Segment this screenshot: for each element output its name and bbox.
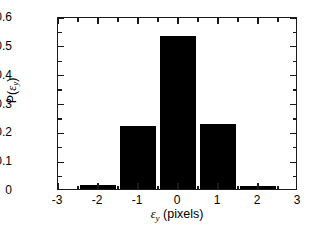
y-tick-major-right	[290, 17, 296, 18]
y-tick-major-right	[290, 46, 296, 47]
x-tick-minor	[237, 186, 238, 190]
x-tick-minor-top	[237, 18, 238, 22]
x-axis-title-units: (pixels)	[160, 207, 204, 221]
y-tick-major	[58, 46, 64, 47]
x-tick-major-top	[217, 18, 218, 24]
y-axis-title-p: P(	[5, 91, 19, 104]
y-tick-label: 0.1	[0, 155, 12, 167]
y-axis-title-paren: )	[5, 78, 19, 82]
y-tick-major	[58, 133, 64, 134]
x-tick-label: -2	[77, 194, 117, 206]
x-tick-label: -3	[37, 194, 77, 206]
bar	[120, 126, 156, 189]
x-axis-title: εy (pixels)	[57, 208, 297, 225]
x-tick-minor	[197, 186, 198, 190]
x-tick-major	[137, 183, 138, 189]
y-tick-minor-right	[293, 89, 297, 90]
x-tick-major	[257, 183, 258, 189]
y-tick-label: 0.5	[0, 40, 12, 52]
x-tick-label: 1	[197, 194, 237, 206]
x-tick-major-top	[177, 18, 178, 24]
x-tick-minor-top	[157, 18, 158, 22]
y-axis-title-epsilon: ε	[5, 86, 19, 91]
plot-area	[57, 17, 297, 190]
y-tick-major	[58, 17, 64, 18]
x-tick-major	[217, 183, 218, 189]
x-tick-label: -1	[117, 194, 157, 206]
y-axis-title: P(εy)	[6, 83, 23, 103]
x-tick-minor-top	[277, 18, 278, 22]
x-tick-major-top	[97, 18, 98, 24]
y-tick-minor-right	[293, 32, 297, 33]
x-tick-minor	[77, 186, 78, 190]
x-tick-major-top	[57, 18, 58, 24]
x-tick-major	[177, 183, 178, 189]
y-tick-minor	[58, 118, 62, 119]
x-tick-minor	[157, 186, 158, 190]
y-tick-major-right	[290, 75, 296, 76]
y-tick-minor-right	[293, 176, 297, 177]
y-tick-minor-right	[293, 118, 297, 119]
x-tick-major	[57, 183, 58, 189]
y-tick-major	[58, 162, 64, 163]
x-tick-label: 2	[237, 194, 277, 206]
x-tick-label: 0	[157, 194, 197, 206]
x-tick-major-top	[257, 18, 258, 24]
y-tick-major-right	[290, 162, 296, 163]
y-tick-major	[58, 104, 64, 105]
y-tick-label: 0.2	[0, 126, 12, 138]
x-tick-minor	[277, 186, 278, 190]
bar	[160, 36, 196, 189]
y-tick-minor	[58, 61, 62, 62]
y-tick-major	[58, 75, 64, 76]
x-tick-major-top	[137, 18, 138, 24]
bar	[200, 124, 236, 189]
bar-series	[58, 18, 296, 189]
y-tick-label: 0.6	[0, 11, 12, 23]
y-tick-major-right	[290, 104, 296, 105]
x-tick-label: 3	[277, 194, 314, 206]
x-tick-major	[97, 183, 98, 189]
x-tick-minor	[117, 186, 118, 190]
y-tick-minor	[58, 89, 62, 90]
figure-histogram: 00.10.20.30.40.50.6 -3-2-10123 P(εy) εy …	[0, 0, 314, 230]
x-tick-minor-top	[77, 18, 78, 22]
y-tick-minor	[58, 176, 62, 177]
y-tick-minor	[58, 32, 62, 33]
x-tick-minor-top	[117, 18, 118, 22]
x-tick-minor-top	[197, 18, 198, 22]
y-tick-label: 0	[5, 184, 12, 196]
y-tick-minor-right	[293, 61, 297, 62]
y-tick-minor-right	[293, 147, 297, 148]
y-axis-title-subscript: y	[10, 82, 20, 86]
y-tick-minor	[58, 147, 62, 148]
y-tick-major-right	[290, 133, 296, 134]
